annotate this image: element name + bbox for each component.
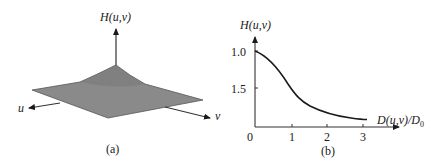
panel-a-surface-plot	[29, 29, 210, 118]
xtick-label-3: 3	[360, 131, 366, 143]
xtick-label-1: 1	[289, 131, 295, 143]
u-axis	[29, 103, 60, 108]
panel-b-caption: (b)	[321, 145, 335, 157]
ytick-label-1-0: 1.0	[231, 46, 246, 58]
panel-a-u-axis-label: u	[18, 102, 24, 114]
ytick-label-1-5: 1.5	[231, 83, 246, 95]
panel-b-y-axis-label: H(u,v)	[240, 19, 271, 31]
v-axis	[165, 107, 210, 118]
x-axis-label-text: D(u,v)/D	[377, 113, 420, 127]
panel-a-vertical-axis-label: H(u,v)	[100, 11, 131, 23]
x-axis-label-subscript: 0	[420, 120, 424, 129]
panel-a-caption: (a)	[106, 143, 119, 155]
panel-b-x-axis-label: D(u,v)/D0	[377, 114, 424, 129]
surface-shading	[80, 65, 145, 87]
xtick-label-2: 2	[324, 131, 330, 143]
panel-a-v-axis-label: v	[215, 110, 220, 122]
xtick-label-0: 0	[247, 131, 253, 143]
transfer-function-curve	[255, 51, 367, 120]
